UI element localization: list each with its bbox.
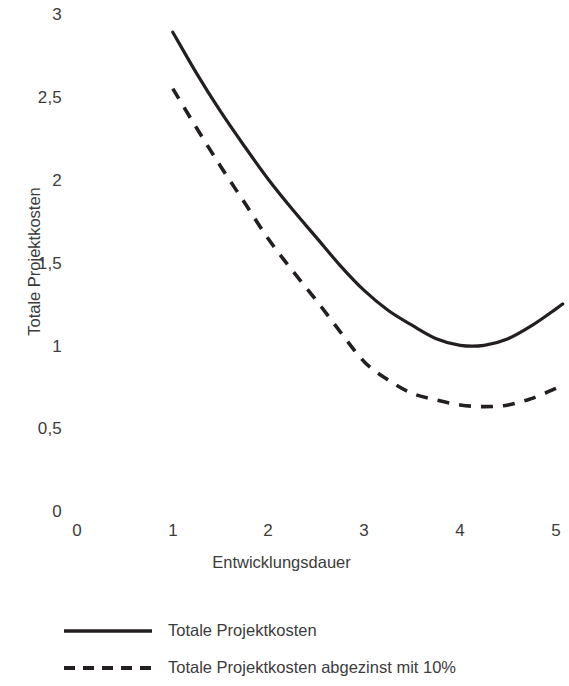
legend-item-totale-projektkosten-abgezinst: Totale Projektkosten abgezinst mit 10%	[0, 649, 563, 686]
series-line-totale-projektkosten-abgezinst	[173, 89, 563, 407]
x-tick-label: 2	[248, 521, 288, 541]
legend-line-dashed-icon	[62, 661, 154, 675]
y-tick-label: 0	[2, 503, 62, 520]
series-line-totale-projektkosten	[173, 32, 563, 346]
y-axis-title: Totale Projektkosten	[25, 162, 44, 362]
x-tick-label: 0	[57, 521, 97, 541]
x-tick-label: 3	[344, 521, 384, 541]
legend-line-solid-icon	[62, 624, 154, 638]
legend-item-totale-projektkosten: Totale Projektkosten	[0, 612, 563, 649]
y-tick-label: 2,5	[2, 89, 62, 106]
legend-label: Totale Projektkosten	[168, 621, 317, 640]
chart-legend: Totale Projektkosten Totale Projektkoste…	[0, 612, 563, 686]
x-tick-label: 4	[440, 521, 480, 541]
y-tick-label: 0,5	[2, 420, 62, 437]
x-axis-title: Entwicklungsdauer	[0, 553, 563, 572]
x-tick-label: 5	[536, 521, 569, 541]
x-axis: 0 1 2 3 4 5	[0, 521, 563, 545]
y-tick-label: 3	[2, 6, 62, 23]
legend-label: Totale Projektkosten abgezinst mit 10%	[168, 658, 456, 677]
x-tick-label: 1	[153, 521, 193, 541]
series-group	[173, 32, 563, 406]
